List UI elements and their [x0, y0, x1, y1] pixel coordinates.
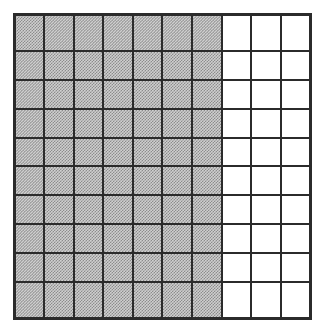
grid-cell-shaded[interactable] [44, 195, 74, 224]
grid-cell-shaded[interactable] [162, 282, 192, 318]
grid-cell-shaded[interactable] [103, 195, 133, 224]
grid-cell-shaded[interactable] [192, 138, 222, 167]
grid-cell-shaded[interactable] [103, 138, 133, 167]
grid-cell-shaded[interactable] [162, 51, 192, 80]
grid-cell-unshaded[interactable] [281, 15, 311, 51]
grid-cell-shaded[interactable] [103, 224, 133, 253]
grid-cell-shaded[interactable] [133, 51, 163, 80]
grid-cell-shaded[interactable] [15, 80, 45, 109]
grid-cell-unshaded[interactable] [222, 166, 252, 195]
grid-cell-shaded[interactable] [15, 195, 45, 224]
grid-cell-unshaded[interactable] [251, 195, 281, 224]
grid-cell-shaded[interactable] [44, 253, 74, 282]
grid-cell-unshaded[interactable] [222, 195, 252, 224]
grid-cell-unshaded[interactable] [222, 253, 252, 282]
grid-cell-unshaded[interactable] [251, 138, 281, 167]
grid-cell-shaded[interactable] [15, 282, 45, 318]
grid-cell-unshaded[interactable] [281, 195, 311, 224]
grid-cell-shaded[interactable] [15, 109, 45, 138]
grid-cell-unshaded[interactable] [222, 15, 252, 51]
grid-cell-shaded[interactable] [133, 282, 163, 318]
grid-cell-shaded[interactable] [192, 80, 222, 109]
grid-cell-unshaded[interactable] [222, 138, 252, 167]
grid-cell-shaded[interactable] [44, 138, 74, 167]
grid-cell-shaded[interactable] [192, 195, 222, 224]
grid-cell-unshaded[interactable] [251, 224, 281, 253]
grid-cell-unshaded[interactable] [222, 282, 252, 318]
grid-cell-shaded[interactable] [15, 138, 45, 167]
grid-cell-shaded[interactable] [192, 253, 222, 282]
grid-cell-unshaded[interactable] [251, 166, 281, 195]
grid-cell-unshaded[interactable] [281, 224, 311, 253]
grid-cell-shaded[interactable] [74, 166, 104, 195]
grid-cell-shaded[interactable] [44, 15, 74, 51]
grid-cell-shaded[interactable] [15, 224, 45, 253]
grid-cell-unshaded[interactable] [281, 166, 311, 195]
grid-cell-shaded[interactable] [133, 166, 163, 195]
grid-cell-shaded[interactable] [44, 80, 74, 109]
grid-cell-shaded[interactable] [133, 138, 163, 167]
grid-cell-unshaded[interactable] [281, 282, 311, 318]
grid-cell-unshaded[interactable] [222, 109, 252, 138]
grid-cell-unshaded[interactable] [222, 224, 252, 253]
grid-cell-shaded[interactable] [133, 15, 163, 51]
grid-cell-shaded[interactable] [192, 282, 222, 318]
grid-cell-shaded[interactable] [133, 224, 163, 253]
grid-cell-shaded[interactable] [162, 15, 192, 51]
grid-cell-shaded[interactable] [44, 51, 74, 80]
grid-cell-unshaded[interactable] [222, 80, 252, 109]
grid-cell-shaded[interactable] [44, 109, 74, 138]
grid-cell-shaded[interactable] [162, 80, 192, 109]
grid-cell-unshaded[interactable] [251, 51, 281, 80]
grid-cell-shaded[interactable] [74, 195, 104, 224]
grid-cell-unshaded[interactable] [222, 51, 252, 80]
grid-cell-shaded[interactable] [103, 80, 133, 109]
grid-cell-shaded[interactable] [133, 80, 163, 109]
grid-cell-unshaded[interactable] [281, 51, 311, 80]
grid-cell-shaded[interactable] [162, 253, 192, 282]
grid-cell-unshaded[interactable] [281, 109, 311, 138]
grid-cell-shaded[interactable] [162, 195, 192, 224]
grid-cell-shaded[interactable] [74, 80, 104, 109]
grid-cell-unshaded[interactable] [251, 15, 281, 51]
grid-cell-unshaded[interactable] [281, 138, 311, 167]
grid-cell-unshaded[interactable] [251, 253, 281, 282]
grid-cell-unshaded[interactable] [251, 282, 281, 318]
grid-cell-shaded[interactable] [15, 51, 45, 80]
grid-cell-shaded[interactable] [192, 166, 222, 195]
grid-cell-shaded[interactable] [15, 166, 45, 195]
grid-cell-shaded[interactable] [133, 253, 163, 282]
grid-cell-shaded[interactable] [74, 224, 104, 253]
grid-cell-shaded[interactable] [15, 253, 45, 282]
grid-cell-shaded[interactable] [162, 166, 192, 195]
grid-cell-shaded[interactable] [103, 253, 133, 282]
grid-cell-shaded[interactable] [74, 15, 104, 51]
grid-cell-shaded[interactable] [162, 138, 192, 167]
grid-cell-shaded[interactable] [74, 138, 104, 167]
grid-cell-shaded[interactable] [192, 109, 222, 138]
grid-cell-shaded[interactable] [192, 224, 222, 253]
grid-cell-shaded[interactable] [74, 109, 104, 138]
grid-cell-shaded[interactable] [192, 15, 222, 51]
grid-cell-unshaded[interactable] [251, 80, 281, 109]
grid-cell-shaded[interactable] [162, 109, 192, 138]
grid-cell-shaded[interactable] [15, 15, 45, 51]
grid-cell-unshaded[interactable] [281, 253, 311, 282]
grid-cell-shaded[interactable] [103, 282, 133, 318]
grid-cell-unshaded[interactable] [251, 109, 281, 138]
grid-cell-shaded[interactable] [133, 195, 163, 224]
grid-cell-shaded[interactable] [74, 282, 104, 318]
grid-cell-shaded[interactable] [192, 51, 222, 80]
grid-cell-unshaded[interactable] [281, 80, 311, 109]
grid-cell-shaded[interactable] [103, 15, 133, 51]
grid-cell-shaded[interactable] [103, 51, 133, 80]
grid-cell-shaded[interactable] [44, 282, 74, 318]
grid-cell-shaded[interactable] [103, 166, 133, 195]
grid-cell-shaded[interactable] [44, 166, 74, 195]
grid-cell-shaded[interactable] [44, 224, 74, 253]
grid-cell-shaded[interactable] [103, 109, 133, 138]
grid-cell-shaded[interactable] [74, 253, 104, 282]
grid-cell-shaded[interactable] [74, 51, 104, 80]
grid-cell-shaded[interactable] [162, 224, 192, 253]
grid-cell-shaded[interactable] [133, 109, 163, 138]
